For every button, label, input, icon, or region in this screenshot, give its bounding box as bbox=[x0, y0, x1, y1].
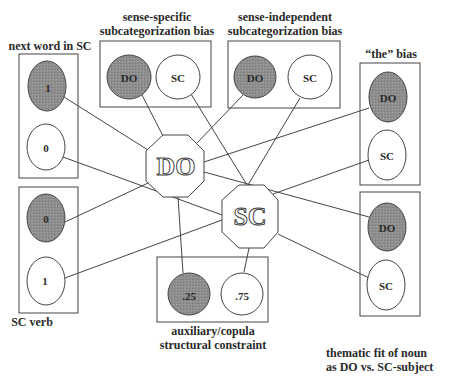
node-label: DO bbox=[379, 222, 396, 234]
node-label: 1 bbox=[45, 82, 51, 94]
node-label: DO bbox=[121, 72, 138, 84]
node-label: 0 bbox=[43, 142, 49, 154]
line-theDO-to-DO bbox=[204, 108, 369, 162]
node-label: 1 bbox=[42, 275, 48, 287]
octagon-SC-label: SC bbox=[233, 202, 266, 231]
line-nextword1-to-DO bbox=[64, 97, 148, 150]
title-sc-verb: SC verb bbox=[2, 316, 62, 329]
node-label: SC bbox=[379, 280, 393, 292]
line-theSC-to-SC bbox=[273, 160, 369, 194]
line-indepDO-to-DO bbox=[196, 95, 243, 144]
line-thematicSC-to-SC bbox=[278, 234, 369, 278]
title-sense-specific-line2: subcategorization bias bbox=[95, 25, 219, 38]
title-next-word: next word in SC bbox=[2, 40, 98, 53]
connection-lines bbox=[63, 94, 369, 278]
title-the-bias: “the” bias bbox=[355, 48, 427, 61]
node-label: SC bbox=[303, 72, 317, 84]
title-aux-copula-line2: structural constraint bbox=[152, 339, 274, 352]
title-thematic-fit-line1: thematic fit of noun bbox=[326, 347, 448, 360]
title-sense-independent-line2: subcategorization bias bbox=[223, 25, 347, 38]
node-label: DO bbox=[380, 92, 397, 104]
line-senseDO-to-DO bbox=[142, 95, 163, 136]
node-label: .75 bbox=[235, 290, 249, 302]
title-thematic-fit-line2: as DO vs. SC-subject bbox=[326, 361, 448, 374]
line-scverb1-to-SC bbox=[65, 220, 222, 278]
line-75-to-SC bbox=[244, 248, 249, 272]
node-label: .25 bbox=[182, 290, 196, 302]
node-label: DO bbox=[247, 72, 264, 84]
octagon-DO-label: DO bbox=[157, 152, 196, 181]
line-indepSC-to-SC bbox=[248, 98, 300, 185]
node-label: SC bbox=[171, 72, 185, 84]
title-sense-independent-line1: sense-independent bbox=[223, 11, 347, 24]
node-label: 0 bbox=[43, 213, 49, 225]
node-label: SC bbox=[380, 150, 394, 162]
title-aux-copula-line1: auxiliary/copula bbox=[152, 325, 274, 338]
line-scverb0-to-DO bbox=[65, 183, 148, 222]
title-sense-specific-line1: sense-specific bbox=[95, 11, 219, 24]
